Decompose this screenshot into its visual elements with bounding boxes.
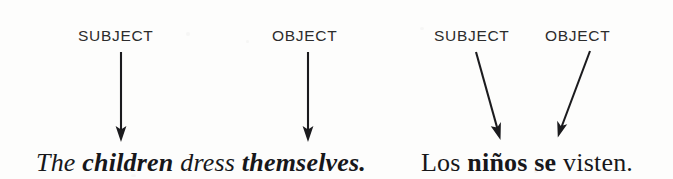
scan-speckle bbox=[246, 40, 249, 43]
spanish-subject-label: SUBJECT bbox=[434, 28, 510, 44]
grammar-diagram-figure: SUBJECT OBJECT The children dress themse… bbox=[0, 0, 673, 179]
english-word-dress: dress bbox=[180, 148, 235, 177]
space bbox=[235, 148, 242, 177]
english-subject-arrow bbox=[116, 52, 127, 142]
spanish-word-visten: visten. bbox=[563, 148, 633, 177]
scan-speckle bbox=[420, 27, 424, 30]
spanish-word-los: Los bbox=[421, 148, 461, 177]
english-sentence: The children dress themselves. bbox=[36, 150, 366, 176]
spanish-subject-arrow bbox=[476, 52, 501, 140]
scan-speckle bbox=[186, 32, 190, 36]
english-word-the: The bbox=[36, 148, 76, 177]
english-word-children: children bbox=[82, 148, 173, 177]
spanish-word-se: se bbox=[534, 148, 556, 177]
english-subject-label: SUBJECT bbox=[78, 28, 154, 44]
english-object-label: OBJECT bbox=[272, 28, 337, 44]
spanish-sentence: Los niños se visten. bbox=[421, 150, 633, 176]
spanish-object-arrow bbox=[557, 51, 590, 138]
english-word-themselves: themselves. bbox=[242, 148, 366, 177]
english-object-arrow bbox=[303, 52, 314, 142]
spanish-object-label: OBJECT bbox=[545, 28, 610, 44]
spanish-word-ninos: niños bbox=[467, 148, 527, 177]
